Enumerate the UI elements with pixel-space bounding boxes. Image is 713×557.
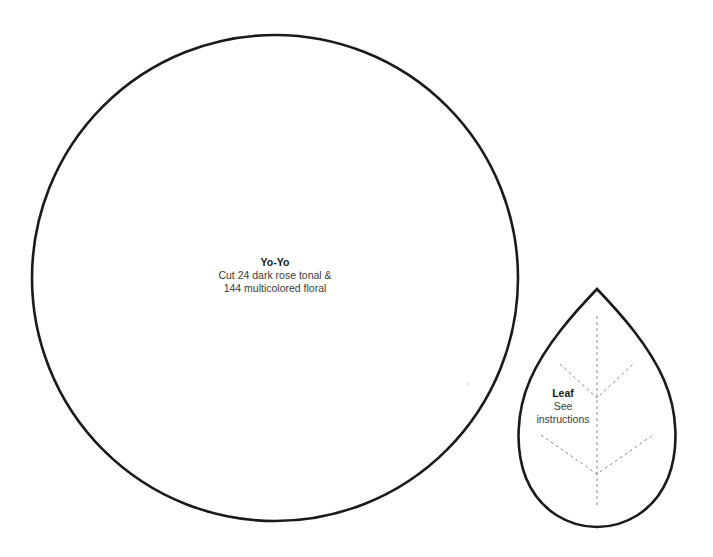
- speck-mark: [467, 383, 469, 385]
- leaf-title: Leaf: [523, 387, 603, 400]
- yoyo-label: Yo-Yo Cut 24 dark rose tonal & 144 multi…: [175, 256, 375, 295]
- yoyo-instruction-line-1: Cut 24 dark rose tonal &: [175, 269, 375, 282]
- leaf-label: Leaf See instructions: [523, 387, 603, 426]
- yoyo-instruction-line-2: 144 multicolored floral: [175, 282, 375, 295]
- leaf-instruction-line-2: instructions: [523, 413, 603, 426]
- yoyo-title: Yo-Yo: [175, 256, 375, 269]
- leaf-instruction-line-1: See: [523, 400, 603, 413]
